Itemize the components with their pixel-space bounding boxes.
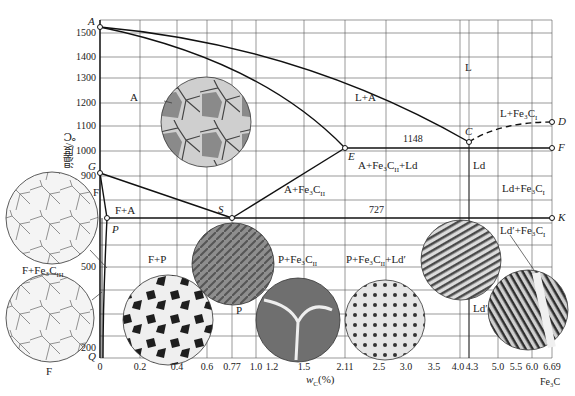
- region-P-Fe3CII: P+Fe₃CII: [278, 254, 317, 270]
- x-tick-0.2: 0.2: [134, 362, 147, 372]
- y-tick-500: 500: [62, 262, 96, 272]
- micrograph-austenite: [161, 77, 251, 167]
- point-D-label: D: [558, 115, 566, 127]
- region-A-Fe3CII: A+Fe₃CII: [284, 184, 325, 200]
- point-E-label: E: [348, 150, 355, 162]
- y-tick-1300: 1300: [62, 73, 96, 83]
- y-tick-1400: 1400: [62, 52, 96, 62]
- x-tick-0.4: 0.4: [171, 362, 184, 372]
- point-P-label: P: [112, 223, 119, 235]
- liquidus-AC: [100, 27, 469, 142]
- point-S-label: S: [218, 203, 224, 215]
- region-Ld: Ld: [473, 160, 485, 171]
- y-tick-1200: 1200: [62, 98, 96, 108]
- label-F-Fe3CIII: F+Fe₃CIII: [22, 265, 64, 281]
- micrograph-pearlite: [192, 223, 274, 305]
- point-K-label: K: [558, 211, 565, 223]
- region-A-Fe3CII-Ld: A+Fe₃CII+Ld: [358, 160, 417, 176]
- region-F-P: F+P: [148, 254, 166, 265]
- region-Ld-prime-Fe3CI: Ld′+Fe₃CI: [500, 225, 545, 241]
- x-axis-end-label: Fe₃C: [540, 376, 560, 387]
- eutectoid-temp-label: 727: [369, 204, 384, 215]
- region-Ld-Fe3CI: Ld+Fe₃CI: [502, 183, 545, 199]
- region-Ld-prime: Ld′: [473, 303, 488, 314]
- region-P: P: [236, 305, 242, 316]
- x-tick-1.2: 1.2: [266, 362, 279, 372]
- x-tick-0.6: 0.6: [201, 362, 214, 372]
- micrograph-f-fe3c3: [6, 172, 98, 264]
- region-L-A: L+A: [355, 92, 376, 103]
- micrograph-ld-prime-fe3c1: [488, 270, 568, 350]
- eutectic-temp-label: 1148: [403, 133, 423, 144]
- y-axis-title: 温度/℃: [61, 130, 77, 168]
- x-axis-title: wC(%): [306, 374, 335, 390]
- y-tick-900: 900: [62, 171, 96, 181]
- x-tick-5.0: 5.0: [492, 362, 505, 372]
- region-L-Fe3CI: L+Fe₃CI: [500, 108, 537, 124]
- micrograph-f-p: [123, 275, 213, 365]
- liquidus-CD: [469, 122, 552, 142]
- label-F-micro: F: [46, 366, 52, 377]
- x-tick-4.3: 4.3: [466, 362, 479, 372]
- region-L: L: [465, 62, 472, 73]
- micrograph-p-fe3c2-ld: [345, 280, 425, 360]
- point-Q-label: Q: [88, 350, 96, 362]
- x-tick-0.77: 0.77: [223, 362, 241, 372]
- point-G-label: G: [88, 160, 96, 172]
- fe-c-phase-diagram: 1500 1400 1300 1200 1100 1000 900 500 20…: [0, 0, 575, 396]
- x-tick-3.5: 3.5: [428, 362, 441, 372]
- region-P-Fe3CII-Ld-prime: P+Fe₃CII+Ld′: [346, 254, 406, 270]
- point-F-label: F: [558, 141, 565, 153]
- x-tick-5.5: 5.5: [510, 362, 523, 372]
- x-tick-2.11: 2.11: [336, 362, 353, 372]
- line-PQ: [103, 218, 107, 358]
- region-F-A: F+A: [115, 205, 135, 216]
- x-tick-3.0: 3.0: [400, 362, 413, 372]
- x-tick-0: 0: [98, 362, 103, 372]
- x-tick-1.5: 1.5: [298, 362, 311, 372]
- micrograph-ld-prime: [421, 220, 501, 300]
- region-A: A: [130, 92, 138, 103]
- point-A-label: A: [88, 15, 95, 27]
- x-tick-6.69: 6.69: [543, 362, 561, 372]
- x-tick-4.0: 4.0: [452, 362, 465, 372]
- x-tick-2.5: 2.5: [373, 362, 386, 372]
- point-C-label: C: [465, 125, 472, 137]
- x-tick-6.0: 6.0: [526, 362, 539, 372]
- y-tick-1500: 1500: [62, 28, 96, 38]
- line-GP: [100, 173, 107, 218]
- region-F: F: [93, 187, 99, 198]
- x-tick-1.0: 1.0: [250, 362, 263, 372]
